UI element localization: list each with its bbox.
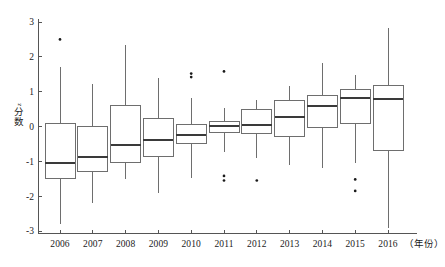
outlier-point <box>223 175 226 178</box>
x-tick-label: 2006 <box>50 239 70 249</box>
x-tick-label: 2009 <box>149 239 169 249</box>
box-plot-item <box>111 45 141 179</box>
y-tick-label: 3 <box>29 17 34 27</box>
box-plot-item <box>275 86 305 164</box>
x-tick-label: 2007 <box>83 239 103 249</box>
x-axis: 2006200720082009201020112012201320142015… <box>38 230 417 250</box>
y-tick-label: -2 <box>26 192 34 202</box>
box-iqr <box>45 124 75 179</box>
box-plot-item <box>209 70 239 182</box>
box-plot-item <box>242 100 272 181</box>
plot-area: 3210-1-2-3 20062007200820092010201120122… <box>0 0 445 267</box>
x-tick-label: 2008 <box>116 239 136 249</box>
x-tick-label: 2012 <box>247 239 267 249</box>
box-iqr <box>340 89 370 123</box>
box-iqr <box>78 127 108 172</box>
box-plot-chart: 3210-1-2-3 20062007200820092010201120122… <box>0 0 445 267</box>
box-iqr <box>209 121 239 132</box>
x-tick-label: 2011 <box>214 239 233 249</box>
x-tick-label: 2010 <box>181 239 201 249</box>
y-tick-label: 1 <box>29 87 34 97</box>
box-plot-item <box>373 28 403 227</box>
box-plot-item <box>307 63 337 168</box>
box-iqr <box>373 85 403 150</box>
box-plot-item <box>143 78 173 193</box>
box-series <box>45 28 403 227</box>
box-iqr <box>275 100 305 137</box>
y-tick-label: 2 <box>29 52 34 62</box>
x-tick-label: 2015 <box>345 239 365 249</box>
box-iqr <box>307 96 337 127</box>
box-iqr <box>242 109 272 133</box>
box-plot-item <box>45 38 75 224</box>
x-tick-label: 2013 <box>280 239 300 249</box>
y-tick-label: -3 <box>26 226 34 236</box>
outlier-point <box>190 72 193 75</box>
box-plot-item <box>176 72 206 178</box>
outlier-point <box>255 179 258 182</box>
y-tick-label: 0 <box>29 122 34 132</box>
x-axis-title: （年份） <box>404 238 444 249</box>
outlier-point <box>223 179 226 182</box>
x-tick-label: 2016 <box>378 239 398 249</box>
x-tick-label: 2014 <box>313 239 333 249</box>
y-tick-label: -1 <box>26 157 34 167</box>
box-iqr <box>111 106 141 163</box>
y-axis: 3210-1-2-3 <box>26 17 42 236</box>
outlier-point <box>190 76 193 79</box>
outlier-point <box>223 70 226 73</box>
outlier-point <box>354 178 357 181</box>
box-plot-item <box>78 84 108 203</box>
box-iqr <box>143 119 173 156</box>
outlier-point <box>59 38 62 41</box>
outlier-point <box>354 190 357 193</box>
box-plot-item <box>340 75 370 192</box>
